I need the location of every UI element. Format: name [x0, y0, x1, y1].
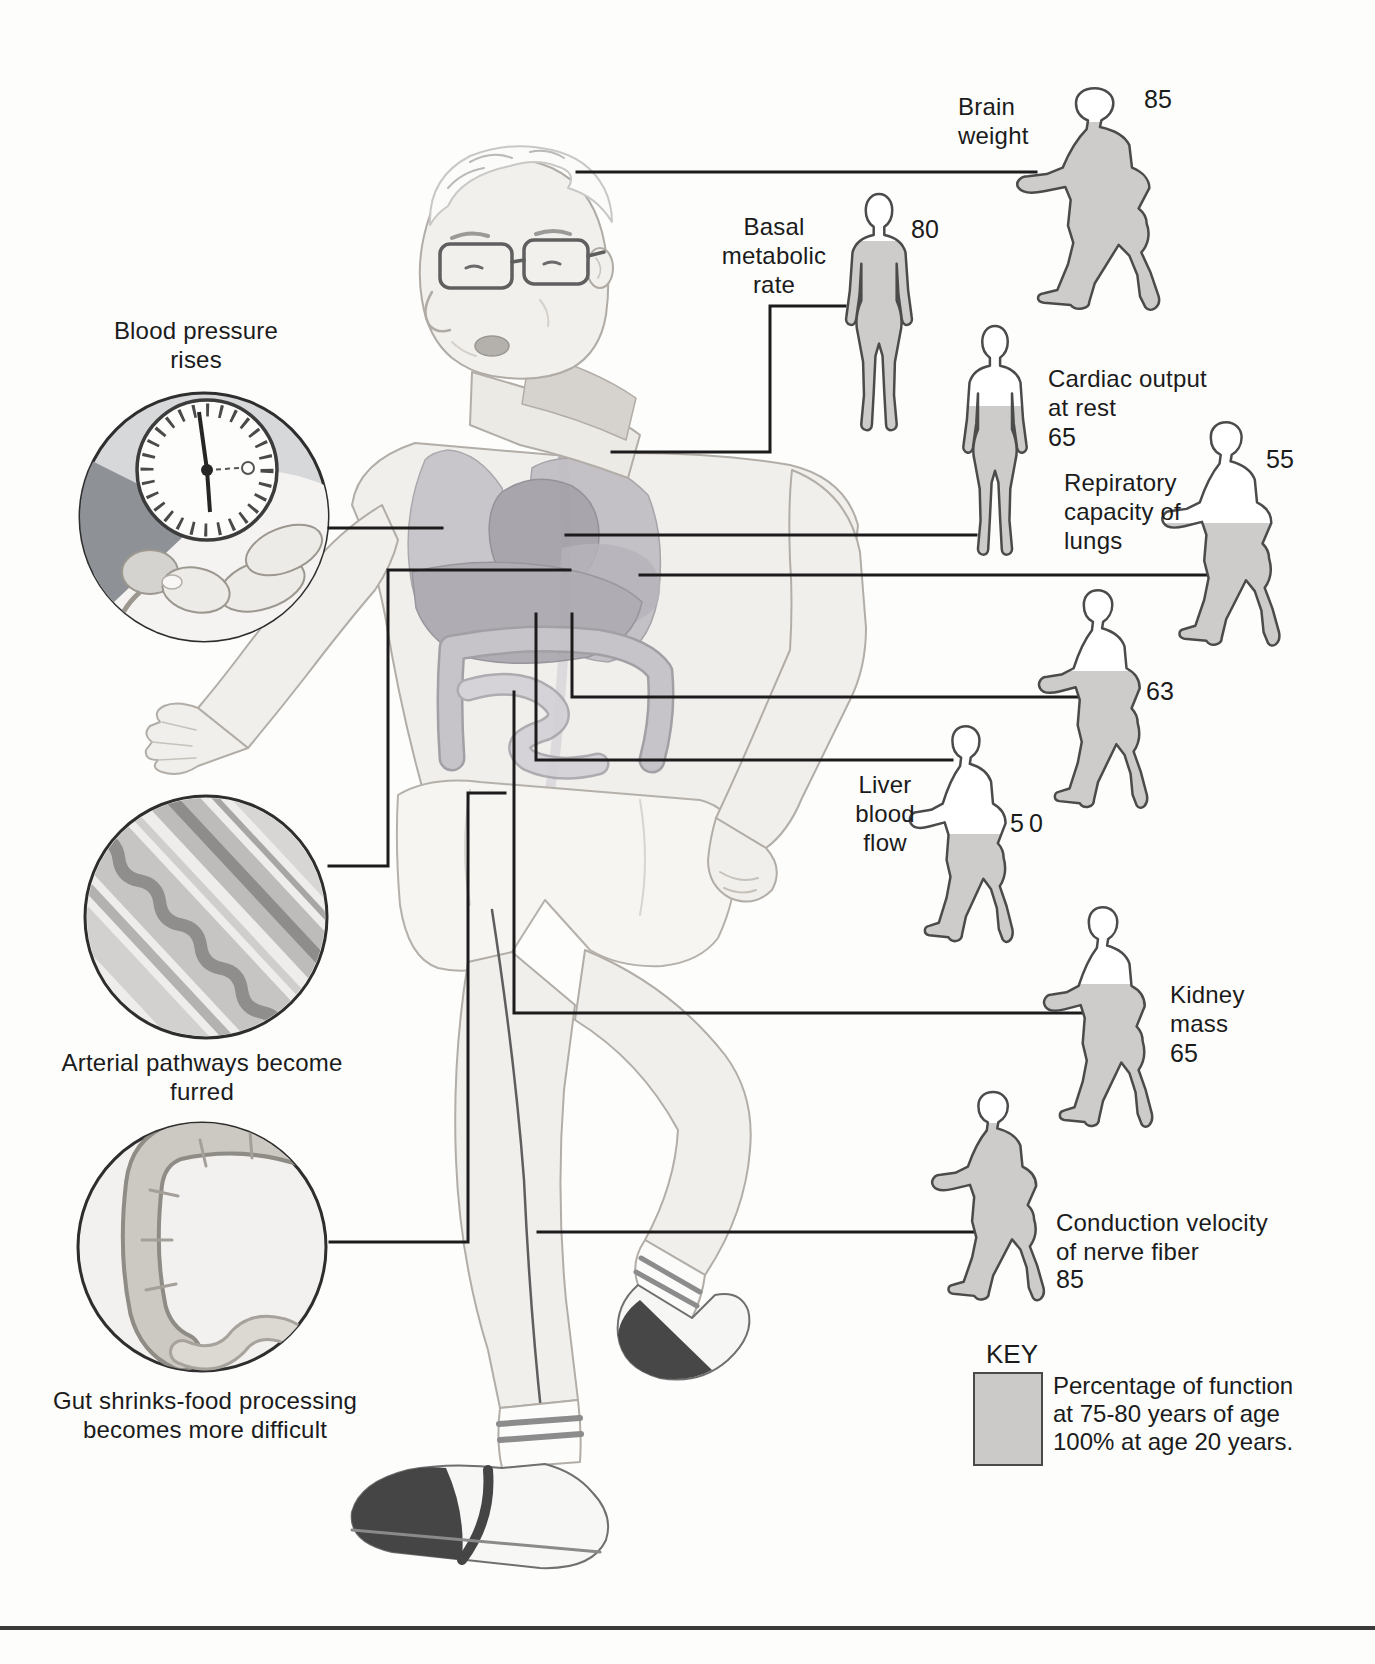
runner-silhouette: [932, 1092, 1044, 1300]
key-line-3: 100% at age 20 years.: [1053, 1428, 1313, 1456]
liver-blood-flow-label: Liver blood flow: [843, 770, 927, 857]
shorts: [397, 781, 737, 971]
key-title: KEY: [986, 1340, 1038, 1368]
key-line-2: at 75-80 years of age: [1053, 1400, 1313, 1428]
brain-weight-value: 85: [1144, 86, 1172, 112]
runner-silhouette: [1044, 907, 1152, 1127]
key-swatch: [973, 1372, 1043, 1466]
stander-silhouette: [846, 194, 912, 430]
cardiac-output-value: 65: [1048, 424, 1076, 450]
brain-weight-label: Brain weight: [958, 92, 1070, 150]
bottom-rule: [0, 1626, 1375, 1630]
key-text: Percentage of function at 75-80 years of…: [1053, 1372, 1313, 1456]
gut-caption: Gut shrinks-food processing becomes more…: [40, 1386, 370, 1444]
basal-metabolic-rate-label: Basal metabolic rate: [703, 212, 845, 299]
liver-blood-flow-value: 50: [1010, 810, 1048, 836]
stander-silhouette: [963, 326, 1026, 555]
kidney-mass-value: 65: [1170, 1040, 1198, 1066]
respiratory-capacity-label: Repiratory capacity of lungs: [1064, 468, 1189, 555]
gut-inset: [78, 1123, 326, 1371]
nerve-conduction-value: 85: [1056, 1266, 1084, 1292]
unlabeled-63-value: 63: [1146, 678, 1174, 704]
kidney-mass-label: Kidney mass: [1170, 980, 1282, 1038]
arterial-caption: Arterial pathways become furred: [46, 1048, 358, 1106]
nerve-conduction-label: Conduction velocity of nerve fiber: [1056, 1208, 1288, 1266]
connector-basal-metabolic: [612, 306, 845, 452]
basal-metabolic-rate-value: 80: [911, 216, 939, 242]
kidney-mass-figure: [1040, 903, 1162, 1137]
pressure-gauge: [137, 400, 277, 540]
cardiac-output-figure: [944, 322, 1046, 570]
key-line-1: Percentage of function: [1053, 1372, 1313, 1400]
unlabeled-63-figure: [1035, 586, 1157, 818]
cardiac-output-label: Cardiac output at rest: [1048, 364, 1223, 422]
blood-pressure-caption: Blood pressure rises: [96, 316, 296, 374]
runner-silhouette: [1039, 590, 1147, 808]
mouth: [475, 336, 509, 356]
respiratory-capacity-value: 55: [1266, 446, 1294, 472]
nerve-conduction-figure: [928, 1088, 1054, 1310]
